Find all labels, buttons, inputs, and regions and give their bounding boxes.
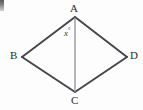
vertex-label-a: A (70, 3, 78, 14)
edge-da (75, 17, 127, 57)
edge-bc (22, 57, 75, 92)
vertex-label-b: B (10, 50, 17, 61)
geometry-figure: A B C D x° (0, 0, 143, 110)
vertex-label-d: D (130, 50, 138, 61)
edge-cd (75, 57, 127, 92)
vertex-label-c: C (71, 95, 78, 106)
degree-symbol: ° (68, 27, 70, 33)
angle-label-x: x° (64, 26, 70, 38)
